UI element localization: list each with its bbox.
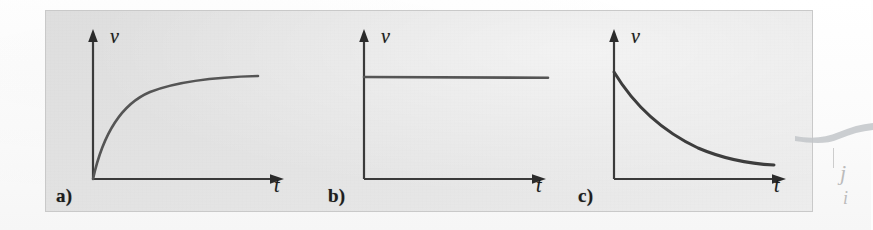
y-axis-label: v	[631, 25, 640, 48]
margin-mark-i: i	[843, 188, 848, 209]
y-axis-arrowhead	[88, 29, 98, 42]
y-axis-label: v	[110, 25, 119, 48]
curve-constant	[364, 77, 548, 78]
panel-label-a: a)	[56, 185, 72, 207]
panel-label-b: b)	[328, 185, 345, 207]
margin-mark-j: j	[840, 160, 846, 186]
x-axis-label: t	[774, 174, 780, 197]
x-axis-label: t	[536, 174, 542, 197]
margin-rule	[833, 148, 834, 168]
figure-frame: v t a) v t b)	[45, 10, 813, 212]
panel-b: v t b)	[302, 11, 558, 213]
panel-label-c: c)	[578, 185, 593, 207]
panel-a: v t a)	[46, 11, 302, 213]
y-axis-arrowhead	[359, 29, 369, 42]
y-axis-label: v	[381, 25, 390, 48]
panel-c: v t c)	[558, 11, 814, 213]
x-axis-label: t	[274, 174, 280, 197]
y-axis-arrowhead	[609, 29, 619, 42]
curve-asymptotic-rise	[93, 76, 258, 179]
curve-exponential-decay	[614, 72, 774, 165]
panel-b-plot	[302, 11, 558, 213]
panel-a-plot	[46, 11, 302, 213]
